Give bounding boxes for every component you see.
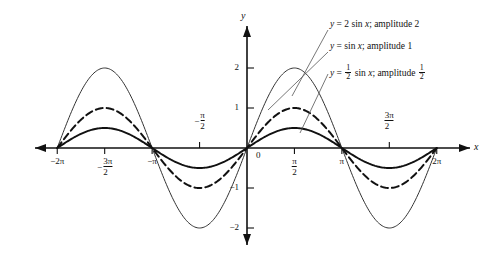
y-axis-label: y bbox=[241, 10, 245, 21]
legend: y = 2 sin x; amplitude 2 y = sin x; ampl… bbox=[330, 20, 495, 86]
y-tick-label: −1 bbox=[229, 182, 239, 192]
y-axis-arrow-down bbox=[243, 234, 251, 245]
legend-item-amp-half: y = 12 sin x; amplitude 12 bbox=[330, 64, 495, 86]
legend-item-amp-1: y = sin x; amplitude 1 bbox=[330, 42, 495, 64]
sine-amplitude-figure: y x 0 −2π−3π2−π−π2π2π3π22π 21−1−2 y = 2 … bbox=[0, 0, 495, 262]
x-axis-label: x bbox=[474, 141, 478, 152]
x-tick-label: −2π bbox=[50, 156, 64, 166]
x-axis-arrow-left bbox=[35, 144, 46, 152]
x-tick-label: −3π2 bbox=[97, 156, 112, 177]
y-tick-label: −2 bbox=[229, 222, 239, 232]
x-tick-label: −π2 bbox=[194, 110, 205, 131]
x-tick-label: π bbox=[340, 156, 345, 166]
y-axis-arrow-up bbox=[243, 26, 251, 37]
legend-item-amp-2: y = 2 sin x; amplitude 2 bbox=[330, 20, 495, 42]
x-axis-arrow-right bbox=[459, 144, 470, 152]
x-tick-label: 2π bbox=[432, 156, 441, 166]
x-tick-label: 3π2 bbox=[385, 110, 394, 131]
x-tick-label: π2 bbox=[292, 156, 297, 177]
y-tick-label: 2 bbox=[235, 62, 240, 72]
origin-label: 0 bbox=[256, 150, 261, 160]
y-tick-label: 1 bbox=[235, 102, 240, 112]
x-tick-label: −π bbox=[147, 156, 157, 166]
